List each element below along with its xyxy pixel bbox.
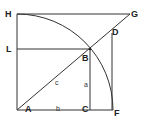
label-L: L xyxy=(6,44,12,54)
label-C: C xyxy=(82,104,89,114)
label-G: G xyxy=(131,9,138,19)
label-D: D xyxy=(112,27,119,37)
point-B xyxy=(89,48,91,50)
geometry-diagram: H G L B D A C F c a b xyxy=(0,0,142,117)
label-B: B xyxy=(82,53,89,63)
label-F: F xyxy=(114,108,120,117)
label-H: H xyxy=(5,9,12,19)
segment-label-c: c xyxy=(55,79,59,86)
segment-label-b: b xyxy=(56,105,60,112)
segment-label-a: a xyxy=(84,81,88,88)
arc-HF xyxy=(17,14,113,110)
label-A: A xyxy=(25,104,32,114)
